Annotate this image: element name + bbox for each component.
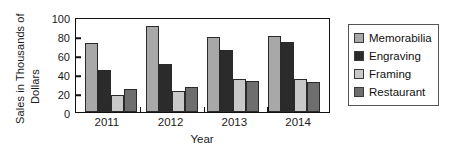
bar	[294, 79, 307, 112]
legend-swatch-icon	[354, 33, 364, 43]
x-axis-tick-label: 2013	[222, 116, 248, 128]
x-axis-tick-label: 2012	[158, 116, 184, 128]
legend-item: Engraving	[354, 47, 432, 65]
y-axis-tick-label: 80	[58, 32, 76, 44]
chart-screenshot: Sales in Thousands of Dollars 0204060801…	[0, 0, 454, 162]
x-axis-tick-mark	[140, 107, 142, 112]
legend-swatch-icon	[354, 87, 364, 97]
legend-item: Restaurant	[354, 83, 432, 101]
x-axis-tick-mark	[267, 107, 269, 112]
bar	[124, 89, 137, 112]
legend-swatch-icon	[354, 69, 364, 79]
bar	[207, 37, 220, 112]
bar	[185, 87, 198, 112]
legend-item: Framing	[354, 65, 432, 83]
bar	[220, 50, 233, 112]
bar	[281, 42, 294, 112]
chart-legend: MemorabiliaEngravingFramingRestaurant	[348, 24, 439, 106]
y-axis-tick-label: 100	[52, 13, 76, 25]
legend-item: Memorabilia	[354, 29, 432, 47]
x-axis-tick-mark	[204, 107, 206, 112]
y-axis-tick-label: 60	[58, 51, 76, 63]
legend-label: Memorabilia	[369, 32, 432, 44]
y-axis-tick-label: 0	[64, 108, 76, 120]
bar-group	[207, 19, 259, 112]
bar-group	[268, 19, 320, 112]
y-axis-tick-label: 40	[58, 70, 76, 82]
y-axis-title-line-1: Sales in Thousands of	[14, 13, 26, 124]
legend-label: Engraving	[369, 50, 421, 62]
bar	[85, 43, 98, 112]
legend-label: Framing	[369, 68, 411, 80]
y-axis-tick-label: 20	[58, 89, 76, 101]
bar-groups	[76, 19, 329, 112]
bar	[146, 26, 159, 112]
x-axis-tick-label: 2014	[285, 116, 311, 128]
bar	[98, 70, 111, 112]
bar	[233, 79, 246, 112]
plot-area: 020406080100	[75, 18, 330, 113]
legend-swatch-icon	[354, 51, 364, 61]
bar-group	[146, 19, 198, 112]
bar	[172, 91, 185, 112]
bar-group	[85, 19, 137, 112]
y-axis-title-line-2: Dollars	[29, 69, 41, 104]
bar	[159, 64, 172, 112]
bar	[246, 81, 259, 112]
bar	[268, 36, 281, 112]
y-axis-title: Sales in Thousands of Dollars	[0, 0, 40, 130]
bar	[111, 95, 124, 112]
x-axis-tick-label: 2011	[95, 116, 120, 128]
x-axis-title: Year	[190, 133, 213, 145]
bar	[307, 82, 320, 112]
legend-label: Restaurant	[369, 86, 425, 98]
